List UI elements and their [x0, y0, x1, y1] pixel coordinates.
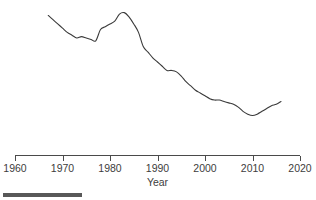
chart-figure: 1960 1970 1980 1990 2000 2010 2020 Year: [0, 0, 316, 200]
x-tick-label-2000: 2000: [193, 162, 217, 174]
x-axis-title: Year: [147, 176, 169, 188]
x-tick-label-2020: 2020: [288, 162, 312, 174]
x-tick-label-1980: 1980: [98, 162, 122, 174]
x-tick-label-1990: 1990: [146, 162, 170, 174]
data-series-line: [48, 12, 281, 115]
x-tick-label-2010: 2010: [241, 162, 265, 174]
x-axis-tick-group: [16, 156, 301, 161]
scale-rule: [3, 193, 82, 197]
x-tick-label-1960: 1960: [3, 162, 27, 174]
line-chart-plot: 1960 1970 1980 1990 2000 2010 2020 Year: [0, 0, 316, 200]
x-tick-label-1970: 1970: [51, 162, 75, 174]
